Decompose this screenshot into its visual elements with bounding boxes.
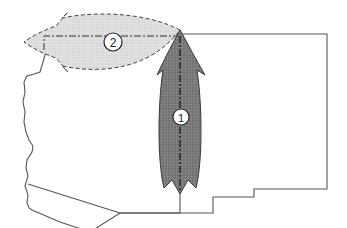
arrow-1-label: 1 [178, 112, 184, 124]
arrow-2 [24, 12, 180, 72]
diagram-canvas: 2 1 [0, 0, 347, 228]
west-bottom-border [28, 184, 180, 213]
western-region-outline [23, 42, 180, 228]
arrow-2-shape [24, 12, 180, 72]
arrow-2-label: 2 [110, 36, 117, 50]
map-svg: 2 1 [0, 0, 347, 228]
eastern-region-outline [180, 34, 327, 213]
